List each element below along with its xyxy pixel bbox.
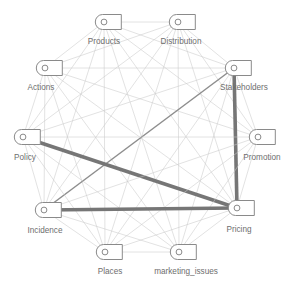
node-tag-shape (95, 15, 121, 30)
graph-node-promotion[interactable] (249, 130, 275, 145)
node-label-pricing: Pricing (226, 225, 251, 234)
node-label-distribution: Distribution (161, 37, 202, 46)
graph-node-distribution[interactable] (169, 15, 195, 30)
graph-node-stakeholders[interactable] (225, 61, 251, 76)
graph-edge[interactable] (23, 68, 234, 137)
graph-node-incidence[interactable] (35, 203, 61, 218)
graph-edge[interactable] (44, 68, 234, 210)
graph-edge[interactable] (105, 68, 234, 252)
node-tag-shape (35, 203, 61, 218)
node-label-marketing_issues: marketing_issues (154, 267, 218, 276)
graph-node-pricing[interactable] (228, 201, 254, 216)
node-tag-shape (225, 61, 251, 76)
graph-edge[interactable] (105, 208, 237, 252)
graph-edge[interactable] (23, 137, 237, 208)
node-tag-shape (96, 245, 122, 260)
node-tag-shape (228, 201, 254, 216)
graph-edge[interactable] (234, 68, 258, 137)
graph-edge[interactable] (44, 22, 104, 210)
node-label-actions: Actions (28, 83, 55, 92)
graph-edge[interactable] (45, 68, 258, 137)
network-diagram-canvas: ProductsDistributionActionsStakeholdersP… (0, 0, 296, 287)
graph-node-actions[interactable] (36, 61, 62, 76)
node-tag-shape (249, 130, 275, 145)
graph-node-products[interactable] (95, 15, 121, 30)
graph-edge[interactable] (237, 137, 258, 208)
graph-node-places[interactable] (96, 245, 122, 260)
node-tag-shape (36, 61, 62, 76)
graph-node-policy[interactable] (14, 130, 40, 145)
node-label-stakeholders: Stakeholders (220, 83, 268, 92)
graph-edge[interactable] (44, 208, 237, 210)
graph-edge[interactable] (23, 68, 45, 137)
graph-edge[interactable] (23, 137, 44, 210)
node-tag-shape (14, 130, 40, 145)
node-label-places: Places (98, 267, 123, 276)
node-tag-shape (169, 15, 195, 30)
node-tag-shape (170, 245, 196, 260)
node-label-promotion: Promotion (243, 153, 281, 162)
node-label-incidence: Incidence (27, 226, 62, 235)
node-label-products: Products (88, 37, 120, 46)
node-label-policy: Policy (14, 153, 37, 162)
graph-node-marketing_issues[interactable] (170, 245, 196, 260)
network-graph[interactable]: ProductsDistributionActionsStakeholdersP… (0, 0, 296, 287)
